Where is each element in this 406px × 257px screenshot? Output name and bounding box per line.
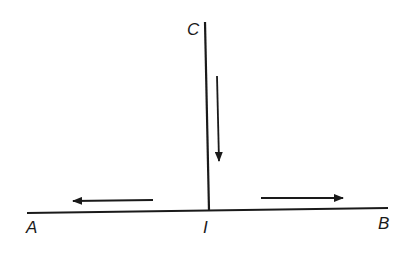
label-a: A xyxy=(25,218,37,237)
label-c: C xyxy=(187,20,200,39)
horizontal-base-line xyxy=(27,208,388,213)
t-junction-diagram: C A I B xyxy=(0,0,406,257)
label-i: I xyxy=(203,218,208,237)
label-b: B xyxy=(378,214,389,233)
vertical-stem-line xyxy=(205,22,209,211)
left-arrow-icon xyxy=(73,200,153,201)
down-arrow-icon xyxy=(217,76,219,161)
